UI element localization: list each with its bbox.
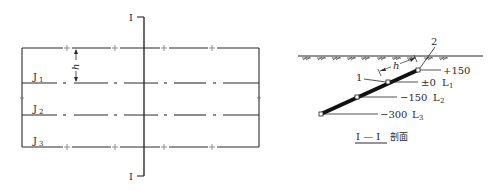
section-mark-top: I <box>129 12 133 23</box>
section-cut-line <box>137 17 144 176</box>
elevation-minus300: −300 <box>380 109 407 120</box>
level-l3: L <box>412 109 419 120</box>
elevation-minus150: −150 <box>400 92 427 103</box>
svg-text:2: 2 <box>440 97 444 105</box>
dimension-label-h: h <box>70 64 81 70</box>
node-l3 <box>319 112 323 116</box>
elevation-zero: ±0 <box>421 77 436 88</box>
section-caption-text: 剖面 <box>390 131 408 142</box>
left-mid-mark <box>20 96 24 100</box>
svg-text:3: 3 <box>419 114 423 122</box>
level-l1: L <box>442 77 449 88</box>
section-mark-bottom: I <box>129 171 133 182</box>
svg-text:J: J <box>32 103 37 114</box>
svg-text:3: 3 <box>39 140 43 148</box>
row-label-j1: J 1 <box>32 71 43 84</box>
svg-text:2: 2 <box>39 108 43 116</box>
svg-text:1: 1 <box>39 76 43 84</box>
right-mid-mark <box>257 96 261 100</box>
callout-leader-2 <box>420 47 435 68</box>
row-line-j3 <box>22 144 259 150</box>
callout-1: 1 <box>356 72 362 83</box>
section-view: +150 ±0 L 1 −150 L 2 −300 L 3 1 2 h I — … <box>298 36 483 143</box>
top-line <box>22 45 259 51</box>
level-l2: L <box>433 92 440 103</box>
callout-leader-1 <box>364 79 386 82</box>
node-l1 <box>386 80 390 84</box>
node-l2 <box>355 95 359 99</box>
svg-text:J: J <box>32 71 37 82</box>
section-dimension-label-h: h <box>393 60 399 71</box>
elevation-plus150: +150 <box>443 65 470 76</box>
svg-text:1: 1 <box>449 82 453 90</box>
row-label-j3: J 3 <box>32 135 43 148</box>
plan-view: I I h J 1 J 2 J 3 <box>20 12 261 182</box>
callout-2: 2 <box>431 36 437 47</box>
diagram-canvas: I I h J 1 J 2 J 3 <box>0 0 491 191</box>
row-label-j2: J 2 <box>32 103 43 116</box>
svg-text:J: J <box>32 135 37 146</box>
node-plus150 <box>416 68 420 72</box>
dimension-h: h <box>70 49 81 82</box>
section-caption-mark: I — I <box>356 131 380 142</box>
